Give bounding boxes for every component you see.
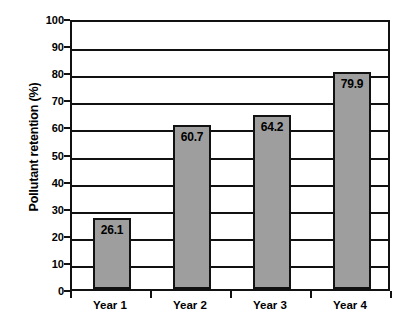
y-axis-tick-label: 50 [24,150,64,162]
y-axis-tick-label: 90 [24,41,64,53]
bar-value-label: 79.9 [335,77,369,91]
y-axis-tick-label: 60 [24,122,64,134]
x-axis-tick-mark [390,291,392,298]
plot-area: 26.160.764.279.9 [70,20,390,291]
bar: 79.9 [333,72,371,289]
y-axis-tick-label: 10 [24,258,64,270]
y-axis-tick-label: 20 [24,231,64,243]
bar-value-label: 64.2 [255,120,289,134]
y-axis-tick-label: 80 [24,68,64,80]
bar-value-label: 26.1 [95,223,129,237]
bar: 64.2 [253,115,291,289]
y-axis-tick-label: 100 [24,14,64,26]
x-axis-tick-mark [230,291,232,298]
bar-series-layer: 26.160.764.279.9 [72,22,388,289]
y-axis-tick-label: 30 [24,204,64,216]
x-axis-tick-mark [150,291,152,298]
x-axis-category-label: Year 4 [310,299,390,311]
y-axis-tick-label: 40 [24,177,64,189]
x-axis-category-label: Year 1 [70,299,150,311]
x-axis-category-label: Year 2 [150,299,230,311]
x-axis-category-label: Year 3 [230,299,310,311]
bar: 26.1 [93,218,131,289]
y-axis-tick-label: 0 [24,285,64,297]
bar-chart-figure: Pollutant retention (%) 0102030405060708… [0,0,409,324]
bar: 60.7 [173,125,211,289]
bar-value-label: 60.7 [175,130,209,144]
x-axis-tick-mark [70,291,72,298]
y-axis-tick-label: 70 [24,95,64,107]
x-axis-tick-mark [310,291,312,298]
